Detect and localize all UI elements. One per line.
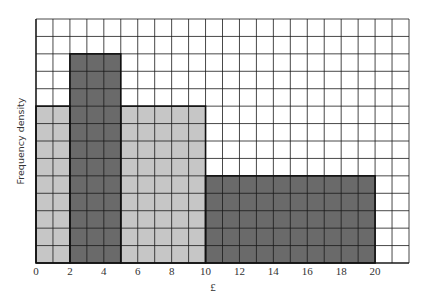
x-tick-label: 2 — [67, 265, 73, 277]
x-tick-label: 10 — [200, 265, 211, 277]
x-tick-label: 12 — [234, 265, 245, 277]
x-tick-label: 6 — [135, 265, 141, 277]
x-tick-label: 0 — [33, 265, 39, 277]
x-tick-label: 18 — [336, 265, 347, 277]
x-tick-label: 20 — [370, 265, 381, 277]
y-axis-label: Frequency density — [15, 98, 26, 185]
x-tick-label: 8 — [169, 265, 175, 277]
x-tick-label: 14 — [268, 265, 279, 277]
x-axis-label: £ — [210, 281, 216, 293]
x-tick-label: 16 — [302, 265, 313, 277]
histogram-svg — [36, 19, 409, 263]
histogram-bar-5-10 — [121, 106, 206, 263]
plot-area — [36, 19, 409, 263]
x-tick-label: 4 — [101, 265, 107, 277]
